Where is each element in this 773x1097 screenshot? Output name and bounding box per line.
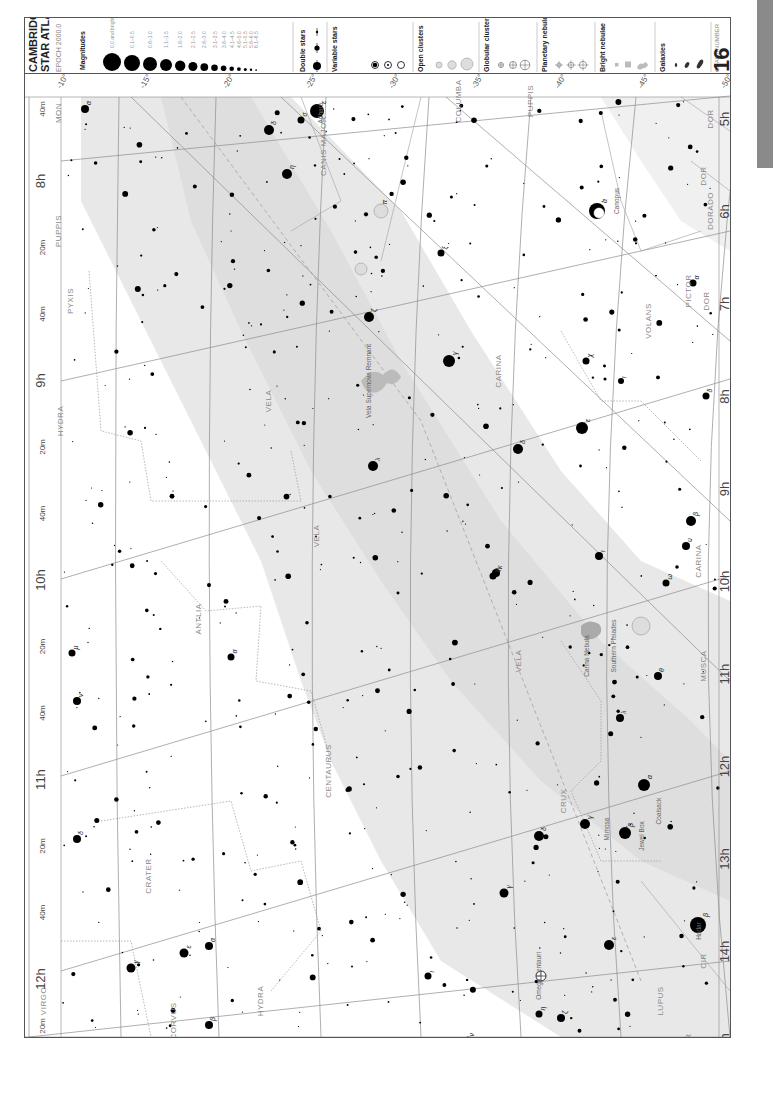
magnitude-label: 4.6–5.0 — [236, 31, 242, 48]
svg-text:-10°: -10° — [55, 74, 70, 90]
constellation-name: PUPPIS — [526, 85, 535, 117]
star: δ — [73, 831, 84, 843]
svg-text:χ: χ — [586, 354, 594, 359]
svg-text:γ: γ — [586, 815, 594, 819]
svg-text:β: β — [209, 1017, 217, 1022]
svg-text:υ: υ — [686, 538, 693, 542]
planetary-nebula-symbols — [555, 59, 589, 70]
svg-text:ε: ε — [584, 418, 591, 422]
constellation-name: VELA — [312, 525, 321, 548]
svg-text:μ: μ — [72, 646, 80, 651]
magnitude-label: 3.6–4.0 — [221, 31, 227, 48]
magnitude-dot — [237, 67, 241, 71]
svg-text:γ: γ — [505, 885, 513, 889]
globular-clusters-heading: Globular clusters — [483, 18, 490, 72]
svg-text:-15°: -15° — [138, 74, 153, 90]
svg-text:40m: 40m — [38, 306, 47, 322]
page-edge-tab — [757, 0, 773, 168]
svg-text:δ: δ — [270, 121, 277, 125]
svg-text:20m: 20m — [38, 439, 47, 455]
named-object: Canopus — [613, 187, 621, 214]
svg-text:ε: ε — [185, 945, 192, 949]
svg-text:ι: ι — [620, 376, 627, 378]
svg-text:20m: 20m — [38, 239, 47, 255]
constellation-name: CORVUS — [169, 1002, 178, 1037]
constellation-name: CARINA — [694, 544, 703, 577]
svg-text:12h: 12h — [717, 756, 730, 778]
svg-text:-30°: -30° — [387, 74, 402, 90]
svg-text:ω: ω — [666, 574, 673, 580]
magnitude-label: 0.6–1.0 — [147, 31, 153, 48]
variable-stars-heading: Variable stars — [331, 26, 338, 72]
svg-text:-20°: -20° — [221, 74, 236, 90]
svg-text:α: α — [231, 649, 238, 654]
named-object: Carina Nebula — [583, 635, 590, 677]
star: ξ — [438, 246, 449, 257]
ra-labels-left: 40m8h20m40m9h20m40m10h20m40m11h20m40m12h… — [33, 101, 48, 1034]
svg-text:ν: ν — [468, 1033, 475, 1037]
magnitude-dot — [229, 66, 234, 71]
svg-text:11h: 11h — [717, 664, 730, 685]
galaxies-heading: Galaxies — [659, 43, 666, 72]
magnitude-label: 1.1–1.5 — [163, 31, 169, 48]
constellation-name: MUSCA — [699, 650, 708, 682]
southern-pleiades-symbol — [632, 617, 650, 635]
double-star-symbols — [313, 28, 321, 72]
svg-text:λ: λ — [374, 457, 381, 462]
named-object: Hadar — [695, 921, 702, 940]
constellation-name: CIR — [684, 1033, 693, 1037]
double-stars-heading: Double stars — [299, 29, 306, 72]
named-object: Southern Pleiades — [610, 619, 617, 673]
svg-text:δ: δ — [77, 831, 84, 835]
atlas-title: CAMBRIDGE STAR ATLAS EPOCH 2000.0 — [27, 18, 62, 72]
magnitude-dot — [244, 68, 247, 71]
constellation-name: CRATER — [144, 858, 153, 893]
svg-text:40m: 40m — [38, 101, 47, 117]
constellation-name: HYDRA — [256, 986, 265, 1017]
star: ι — [425, 971, 435, 980]
svg-text:θ: θ — [658, 668, 665, 672]
star: ν — [73, 693, 84, 705]
svg-text:α: α — [601, 198, 608, 203]
svg-text:-35°: -35° — [470, 74, 485, 90]
constellation-name: CRUX — [559, 789, 568, 814]
variable-star-symbols — [372, 62, 405, 69]
star-chart-graphic[interactable]: εηδσαζγεδλκβαβγβδεζγεαγβαμνλθηιδνμαφξπυα… — [25, 74, 730, 1037]
svg-text:δ: δ — [540, 827, 547, 831]
magnitude-label: 2.6–3.0 — [201, 31, 207, 48]
svg-text:-40°: -40° — [553, 74, 568, 90]
svg-text:40m: 40m — [38, 904, 47, 920]
magnitude-scale: 0.0 and brighter0.1–0.50.6–1.01.1–1.51.6… — [103, 18, 259, 71]
constellation-name: MON — [54, 103, 63, 123]
magnitude-label: 0.0 and brighter — [109, 18, 115, 48]
svg-text:8h: 8h — [33, 174, 48, 188]
constellation-name: HYDRA — [56, 406, 65, 437]
magnitude-dot — [175, 61, 185, 71]
svg-text:β: β — [627, 823, 635, 828]
constellation-name: VELA — [514, 650, 523, 673]
named-object: Adhara — [317, 102, 324, 123]
planetary-nebulae-heading: Planetary nebulae — [541, 18, 549, 72]
chart-number: 16 — [709, 48, 730, 72]
svg-text:λ: λ — [620, 710, 627, 715]
svg-text:20m: 20m — [38, 838, 47, 854]
magnitude-label: 2.1–2.5 — [190, 31, 196, 48]
magnitude-label: 4.1–4.5 — [229, 31, 235, 48]
svg-text:12h: 12h — [33, 968, 48, 990]
svg-text:η: η — [539, 1007, 547, 1011]
svg-text:δ: δ — [519, 440, 526, 444]
constellation-name: CARINA — [494, 354, 503, 387]
star: μ — [69, 646, 80, 657]
svg-text:ξ: ξ — [441, 246, 449, 250]
svg-text:5h: 5h — [717, 112, 730, 126]
magnitude-label: 6.1–6.5 — [253, 31, 259, 48]
title-line-2: STAR ATLAS — [39, 18, 51, 72]
svg-text:40m: 40m — [38, 705, 47, 721]
star-chart[interactable]: εηδσαζγεδλκβαβγβδεζγεαγβαμνλθηιδνμαφξπυα… — [24, 73, 731, 1038]
open-clusters-heading: Open clusters — [417, 25, 425, 72]
named-object: Omega Centauri — [535, 952, 543, 1000]
magnitude-label: 0.1–0.5 — [129, 31, 135, 48]
legend-graphic: CAMBRIDGE STAR ATLAS EPOCH 2000.0 Magnit… — [25, 18, 730, 74]
svg-text:14h: 14h — [717, 941, 730, 963]
constellation-name: DOR — [699, 166, 708, 185]
